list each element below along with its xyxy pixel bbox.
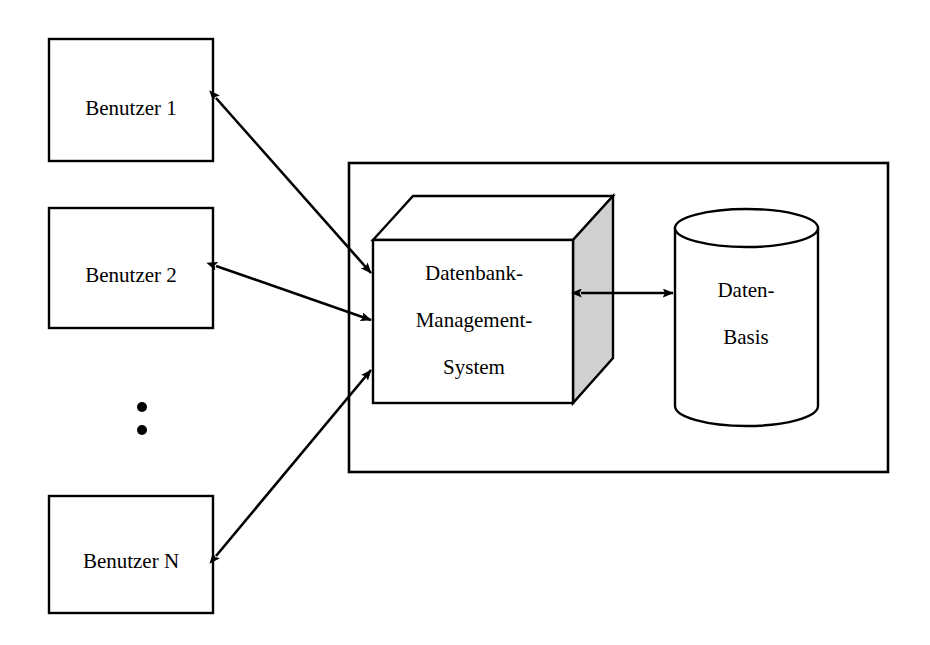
ellipsis-dot-1 [137, 402, 147, 412]
database-cylinder-top [675, 209, 818, 247]
database-cylinder[interactable]: Daten- Basis [675, 209, 818, 426]
user-box-1[interactable]: Benutzer 1 [49, 39, 213, 161]
dbms-label-line1: Datenbank- [425, 261, 523, 285]
user-box-1-label: Benutzer 1 [85, 96, 177, 120]
dbms-cube[interactable]: Datenbank- Management- System [373, 196, 613, 403]
user-box-2-label: Benutzer 2 [85, 263, 177, 287]
user-box-n[interactable]: Benutzer N [49, 496, 213, 613]
database-label-line2: Basis [723, 325, 769, 349]
dbms-cube-top-face [373, 196, 613, 240]
database-label-line1: Daten- [717, 278, 774, 302]
database-system-diagram: Benutzer 1 Benutzer 2 Benutzer N Datenba… [0, 0, 930, 645]
dbms-label-line2: Management- [416, 308, 533, 332]
ellipsis-dot-2 [137, 425, 147, 435]
user-box-n-label: Benutzer N [83, 549, 179, 573]
vertical-ellipsis [137, 402, 147, 435]
diagram-canvas: Benutzer 1 Benutzer 2 Benutzer N Datenba… [0, 0, 930, 645]
dbms-label-line3: System [443, 355, 505, 379]
user-box-2[interactable]: Benutzer 2 [49, 208, 213, 328]
